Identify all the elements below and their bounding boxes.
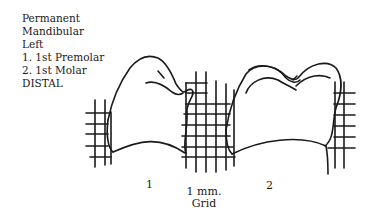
molar-outline <box>226 63 341 174</box>
tooth-label-2: 2 <box>266 179 273 192</box>
premolar-outline <box>107 56 193 153</box>
scale-label-grid: Grid <box>182 198 226 210</box>
tooth-label-1: 1 <box>146 178 153 191</box>
grid-right <box>328 82 355 168</box>
tooth-diagram <box>0 0 375 216</box>
scale-label: 1 mm. Grid <box>182 186 226 210</box>
